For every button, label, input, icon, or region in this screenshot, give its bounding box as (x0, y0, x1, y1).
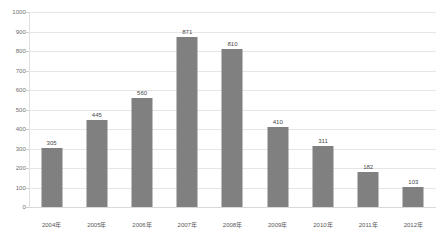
bar-value-label: 305 (47, 140, 57, 146)
bar[interactable] (177, 37, 198, 207)
y-axis-tick (26, 149, 29, 150)
bar[interactable] (312, 146, 333, 207)
y-axis-tick (26, 110, 29, 111)
y-axis-tick (26, 51, 29, 52)
y-axis-tick-label: 300 (2, 146, 26, 152)
y-axis-tick-label: 0 (2, 204, 26, 210)
x-axis-category-label: 2010年 (300, 221, 345, 229)
bar-chart: 01002003004005006007008009001000 3054455… (0, 0, 442, 240)
y-axis-tick (26, 32, 29, 33)
x-axis-category-label: 2006年 (119, 221, 164, 229)
x-axis-category-label: 2012年 (391, 221, 436, 229)
bar-group: 560 (119, 12, 164, 207)
bar[interactable] (358, 172, 379, 207)
x-axis-category-label: 2009年 (255, 221, 300, 229)
x-axis-category-label: 2008年 (210, 221, 255, 229)
bar[interactable] (403, 187, 424, 207)
x-axis-category-label: 2005年 (74, 221, 119, 229)
bar-value-label: 182 (363, 164, 373, 170)
bar-group: 305 (29, 12, 74, 207)
y-axis-tick-label: 600 (2, 87, 26, 93)
bar-group: 311 (300, 12, 345, 207)
x-axis-category-label: 2007年 (165, 221, 210, 229)
y-axis-tick-label: 200 (2, 165, 26, 171)
y-axis-tick (26, 207, 29, 208)
y-axis-tick-label: 1000 (2, 9, 26, 15)
y-axis-tick-labels: 01002003004005006007008009001000 (0, 0, 26, 240)
bar-group: 871 (165, 12, 210, 207)
gridline (29, 207, 436, 208)
y-axis-tick-label: 500 (2, 107, 26, 113)
x-axis-category-label: 2004年 (29, 221, 74, 229)
y-axis-tick (26, 71, 29, 72)
bar-value-label: 311 (318, 138, 328, 144)
bar-group: 103 (391, 12, 436, 207)
bar-group: 410 (255, 12, 300, 207)
bar-value-label: 871 (182, 29, 192, 35)
y-axis-tick (26, 168, 29, 169)
bar[interactable] (86, 120, 107, 207)
y-axis-tick-label: 700 (2, 68, 26, 74)
bar-value-label: 103 (408, 179, 418, 185)
y-axis-tick-label: 100 (2, 185, 26, 191)
bar-group: 182 (346, 12, 391, 207)
bar[interactable] (132, 98, 153, 207)
bar-group: 445 (74, 12, 119, 207)
bar-value-label: 560 (137, 90, 147, 96)
y-axis-tick (26, 188, 29, 189)
y-axis-tick-label: 900 (2, 29, 26, 35)
bar[interactable] (267, 127, 288, 207)
bar-value-label: 810 (227, 41, 237, 47)
y-axis-tick (26, 90, 29, 91)
bar[interactable] (222, 49, 243, 207)
bar-group: 810 (210, 12, 255, 207)
y-axis-tick-label: 800 (2, 48, 26, 54)
x-axis-category-label: 2011年 (346, 221, 391, 229)
bar-value-label: 445 (92, 112, 102, 118)
bar[interactable] (41, 148, 62, 207)
bar-value-label: 410 (273, 119, 283, 125)
y-axis-tick (26, 12, 29, 13)
plot-area: 305445560871810410311182103 (29, 12, 436, 207)
x-axis-category-labels: 2004年2005年2006年2007年2008年2009年2010年2011年… (29, 221, 436, 235)
y-axis-tick-label: 400 (2, 126, 26, 132)
y-axis-tick (26, 129, 29, 130)
